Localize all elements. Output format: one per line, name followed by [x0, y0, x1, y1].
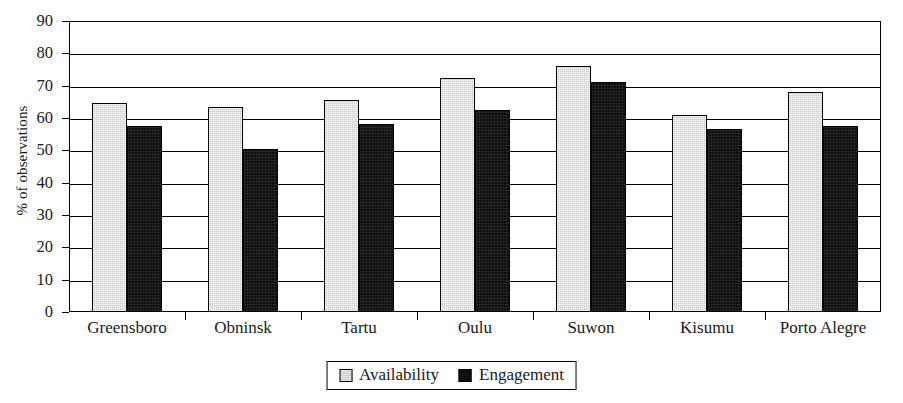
y-tick-mark [62, 150, 69, 151]
y-tick-mark [62, 53, 69, 54]
y-tick-label: 80 [18, 43, 62, 63]
y-tick-mark [62, 247, 69, 248]
legend-item: Availability [339, 365, 439, 385]
gridline [70, 119, 880, 120]
x-axis-category-label: Obninsk [185, 318, 301, 338]
y-tick-mark [62, 21, 69, 22]
y-tick-mark [62, 86, 69, 87]
y-tick-label: 40 [18, 173, 62, 193]
y-tick-label: 90 [18, 11, 62, 31]
chart-legend: AvailabilityEngagement [326, 361, 577, 390]
light-gray-square-swatch [339, 369, 352, 382]
x-axis-category-label: Oulu [417, 318, 533, 338]
legend-label: Engagement [479, 365, 564, 385]
gridline [70, 54, 880, 55]
plot-area [69, 21, 881, 312]
gridline [70, 216, 880, 217]
y-tick-mark [62, 312, 69, 313]
gridline [70, 87, 880, 88]
legend-item: Engagement [459, 365, 564, 385]
x-axis-category-label: Porto Alegre [765, 318, 881, 338]
gridline [70, 281, 880, 282]
legend-label: Availability [359, 365, 439, 385]
gridline [70, 248, 880, 249]
y-tick-mark [62, 215, 69, 216]
y-tick-mark [62, 118, 69, 119]
x-axis-category-label: Suwon [533, 318, 649, 338]
y-tick-mark [62, 183, 69, 184]
black-square-swatch [459, 369, 472, 382]
x-axis-category-label: Kisumu [649, 318, 765, 338]
bar-chart: % of observations 0102030405060708090 Gr… [0, 0, 903, 403]
y-tick-label: 20 [18, 237, 62, 257]
gridline [70, 151, 880, 152]
y-tick-label: 60 [18, 108, 62, 128]
x-axis-category-label: Tartu [301, 318, 417, 338]
y-tick-label: 10 [18, 270, 62, 290]
gridline [70, 184, 880, 185]
y-tick-mark [62, 280, 69, 281]
y-tick-label: 30 [18, 205, 62, 225]
y-tick-label: 0 [18, 302, 62, 322]
y-tick-label: 50 [18, 140, 62, 160]
y-tick-label: 70 [18, 76, 62, 96]
x-axis-category-label: Greensboro [69, 318, 185, 338]
x-axis-labels: GreensboroObninskTartuOuluSuwonKisumuPor… [69, 318, 881, 338]
